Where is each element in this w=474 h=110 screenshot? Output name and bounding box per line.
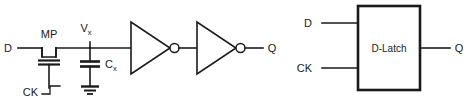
label-d-input-left: D [4,42,12,54]
label-capacitor-cx: Cx [105,58,117,73]
transistor-source-drain-left [42,48,56,57]
circuit-diagram-figure: D MP Vx Cx CK Q D CK D-Latch Q [0,0,474,110]
label-transistor-mp: MP [41,28,58,40]
clock-rising-edge-glyph [42,86,60,94]
inverter-2-bubble-icon [236,44,245,53]
label-ck-input-right: CK [297,62,313,74]
label-clock-ck-left: CK [23,86,39,98]
label-q-output-right: Q [455,42,464,54]
label-q-output-left: Q [268,42,277,54]
label-node-vx: Vx [80,22,91,37]
inverter-1-bubble-icon [170,44,179,53]
inverter-1-triangle [131,22,170,74]
label-dlatch-block: D-Latch [371,43,406,54]
label-d-input-right: D [304,17,312,29]
circuit-schematic-canvas: D MP Vx Cx CK Q D CK D-Latch Q [0,0,474,110]
right-dlatch-block: D CK D-Latch Q [297,6,464,90]
inverter-2-triangle [197,22,236,74]
left-transistor-circuit: D MP Vx Cx CK Q [4,22,277,98]
